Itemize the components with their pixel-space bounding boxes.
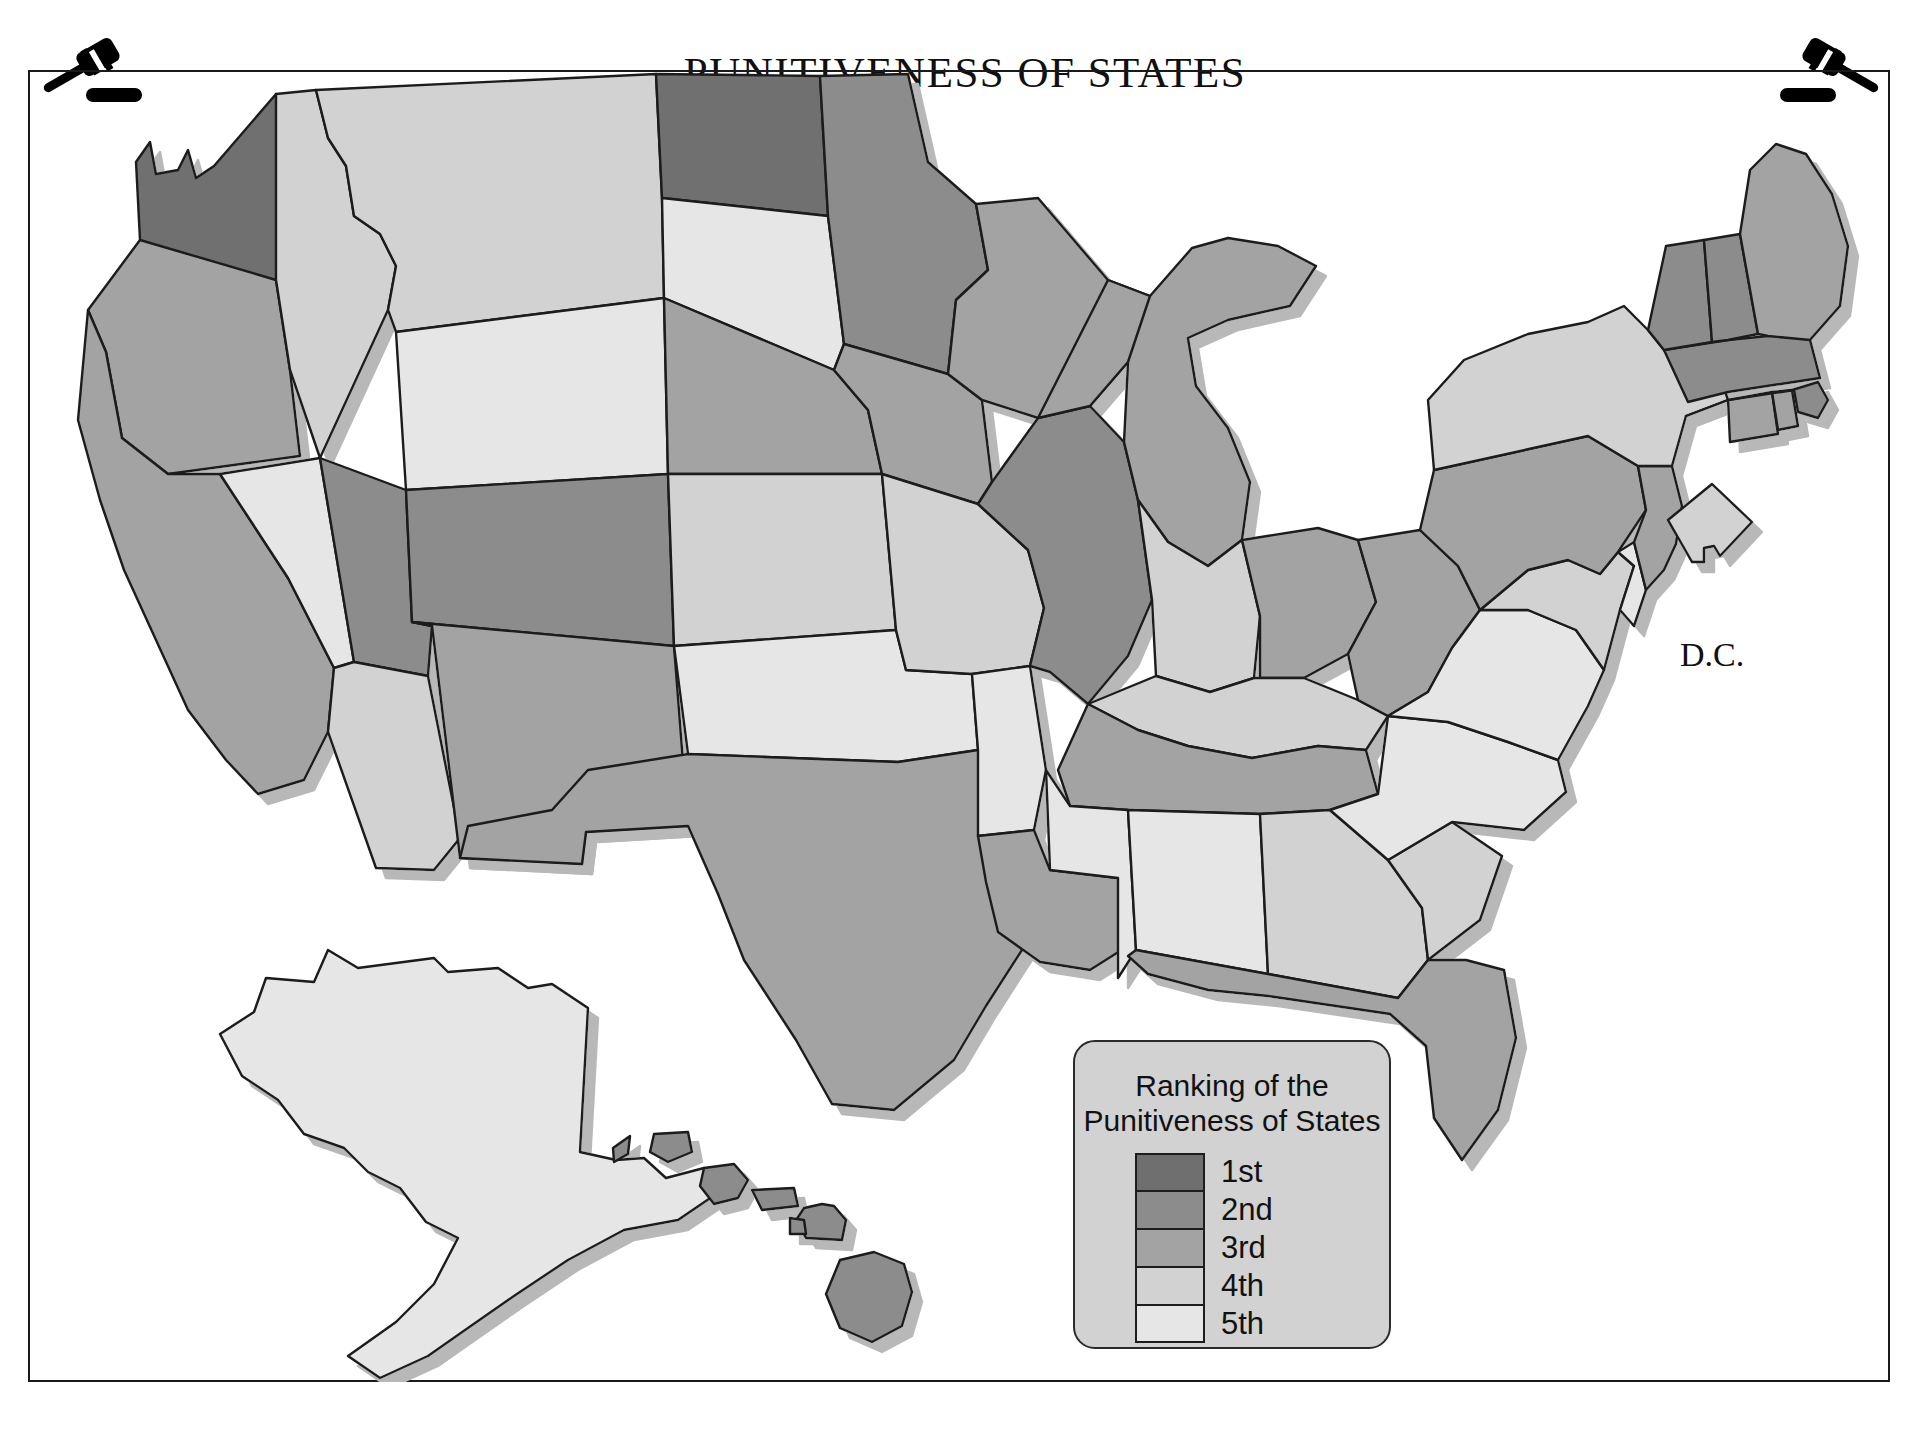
legend-item-2nd[interactable]: 2nd (1135, 1191, 1389, 1229)
legend-swatch-1st (1135, 1153, 1205, 1191)
legend-label-1st: 1st (1221, 1154, 1262, 1190)
dc-label: D.C. (1680, 636, 1744, 674)
state-CO[interactable] (406, 474, 674, 646)
state-AK[interactable] (220, 950, 728, 1378)
state-AL[interactable] (1128, 810, 1268, 974)
us-choropleth-map (28, 70, 1890, 1382)
legend-swatch-4th (1135, 1267, 1205, 1305)
legend-item-4th[interactable]: 4th (1135, 1267, 1389, 1305)
state-KS[interactable] (668, 474, 896, 646)
state-HI[interactable] (613, 1132, 912, 1342)
legend-swatch-5th (1135, 1305, 1205, 1343)
map-page: PUNITIVENESS OF STATES (0, 0, 1930, 1437)
legend-label-2nd: 2nd (1221, 1192, 1273, 1228)
legend-title: Ranking of the Punitiveness of States (1075, 1042, 1389, 1139)
map-legend: Ranking of the Punitiveness of States 1s… (1073, 1040, 1391, 1349)
state-VT[interactable] (1648, 240, 1712, 350)
legend-label-5th: 5th (1221, 1306, 1264, 1342)
legend-item-1st[interactable]: 1st (1135, 1153, 1389, 1191)
legend-items: 1st 2nd 3rd 4th 5th (1075, 1153, 1389, 1343)
legend-label-4th: 4th (1221, 1268, 1264, 1304)
legend-item-5th[interactable]: 5th (1135, 1305, 1389, 1343)
state-ND[interactable] (656, 74, 828, 216)
legend-label-3rd: 3rd (1221, 1230, 1266, 1266)
state-AR[interactable] (972, 666, 1046, 836)
legend-swatch-3rd (1135, 1229, 1205, 1267)
legend-title-line1: Ranking of the (1075, 1068, 1389, 1103)
legend-item-3rd[interactable]: 3rd (1135, 1229, 1389, 1267)
legend-title-line2: Punitiveness of States (1075, 1103, 1389, 1138)
legend-swatch-2nd (1135, 1191, 1205, 1229)
state-ME[interactable] (1740, 144, 1848, 340)
state-WY[interactable] (396, 298, 668, 490)
